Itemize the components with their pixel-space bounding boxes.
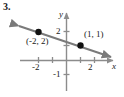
data-point-a bbox=[35, 29, 41, 35]
x-tick-label-2: 2 bbox=[88, 63, 93, 72]
y-axis-label: y bbox=[59, 10, 63, 19]
x-tick-label-minus2: -2 bbox=[32, 63, 40, 72]
point-label-a: (-2, 2) bbox=[26, 37, 49, 46]
point-label-b: (1, 1) bbox=[84, 30, 104, 39]
coordinate-plane-figure: 3. y bbox=[0, 0, 124, 97]
data-point-b bbox=[77, 42, 83, 48]
y-tick-label-minus1: -1 bbox=[53, 70, 61, 79]
x-axis-label: x bbox=[112, 62, 116, 71]
y-tick-label-2: 2 bbox=[56, 27, 61, 36]
